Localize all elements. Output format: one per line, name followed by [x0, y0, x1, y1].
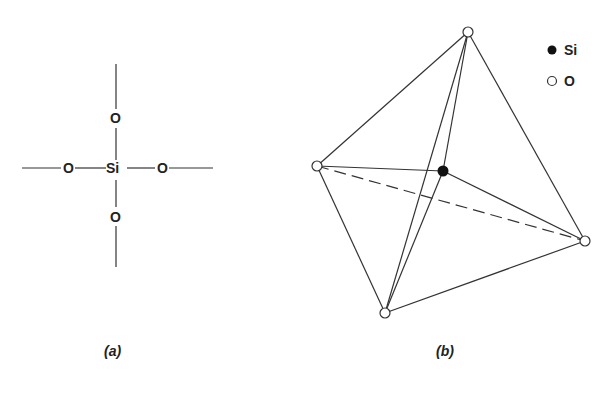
oxygen-atom-icon — [580, 236, 590, 246]
caption-b: (b) — [436, 343, 454, 359]
caption-a: (a) — [104, 343, 121, 359]
edge-line — [385, 32, 468, 313]
edge-line — [317, 166, 385, 313]
tetrahedron-edges — [317, 32, 585, 313]
atom-label-o-top: O — [110, 111, 121, 125]
silicon-atom-icon — [438, 166, 449, 177]
diagram-canvas — [0, 0, 612, 401]
si-o-bond — [317, 166, 443, 171]
legend-si-filled-circle-icon — [548, 46, 557, 55]
atom-label-o-bottom: O — [110, 210, 121, 224]
oxygen-atom-icon — [463, 27, 473, 37]
legend-label-si: Si — [564, 43, 577, 57]
oxygen-atom-icon — [380, 308, 390, 318]
si-o-bond — [443, 171, 585, 241]
hidden-edge-dashed — [317, 166, 585, 241]
atom-label-si-center: Si — [106, 161, 119, 175]
edge-line — [385, 241, 585, 313]
legend-label-o: O — [564, 74, 575, 88]
edge-line — [317, 32, 468, 166]
edge-line — [468, 32, 585, 241]
si-o-bond — [385, 171, 443, 313]
atom-label-o-left: O — [63, 161, 74, 175]
atom-label-o-right: O — [157, 161, 168, 175]
legend-o-open-circle-icon — [548, 77, 557, 86]
si-o-bond — [443, 32, 468, 171]
oxygen-atom-icon — [312, 161, 322, 171]
oxygen-atoms — [312, 27, 590, 318]
